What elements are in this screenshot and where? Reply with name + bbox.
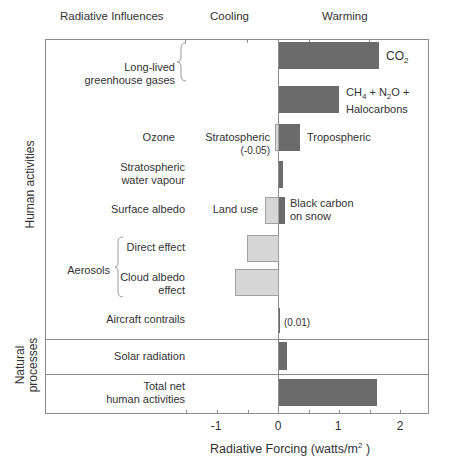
- bar-solar-radiation: [279, 342, 287, 370]
- total-l2: human activities: [60, 393, 185, 406]
- bar-aircraft-contrails: [279, 308, 280, 333]
- annot-black-carbon: Black carbon on snow: [290, 197, 354, 223]
- tick-label-1: 1: [323, 419, 353, 433]
- label-ozone: Ozone: [80, 131, 175, 144]
- bar-direct-effect: [247, 235, 279, 262]
- tick-bottom: [370, 410, 371, 414]
- tick-label-0: 0: [263, 419, 293, 433]
- bar-cloud-albedo: [235, 269, 279, 296]
- tick-bottom: [248, 410, 249, 414]
- label-strat-water-vapour: Stratospheric water vapour: [80, 161, 185, 187]
- divider-natural: [45, 339, 429, 340]
- cloud-l2: effect: [110, 284, 185, 297]
- tick-top: [247, 39, 248, 43]
- group-natural-processes: Natural processes: [14, 330, 40, 400]
- label-total-net: Total net human activities: [60, 380, 185, 406]
- tick-bottom: [339, 410, 340, 414]
- header-warming: Warming: [322, 10, 368, 22]
- header-radiative-influences: Radiative Influences: [60, 10, 164, 22]
- label-cloud-albedo: Cloud albedo effect: [110, 271, 185, 297]
- total-l1: Total net: [60, 380, 185, 393]
- label-solar-radiation: Solar radiation: [60, 350, 185, 363]
- bar-ozone-tropospheric: [279, 124, 300, 151]
- bar-ch4-n2o-halocarbons: [279, 86, 339, 113]
- cloud-l1: Cloud albedo: [110, 271, 185, 284]
- bar-land-use: [265, 197, 279, 224]
- label-long-lived: Long-lived greenhouse gases: [70, 61, 175, 87]
- annot-stratospheric: Stratospheric (-0.05): [190, 131, 270, 157]
- group-human-activities: Human activities: [24, 125, 37, 245]
- strat-text: Stratospheric: [190, 131, 270, 144]
- bc-l1: Black carbon: [290, 197, 354, 210]
- tick-bottom: [400, 410, 401, 414]
- bar-total-net: [279, 379, 377, 406]
- water-l2: water vapour: [80, 174, 185, 187]
- annot-land-use: Land use: [200, 203, 258, 216]
- label-long-lived-l1: Long-lived: [70, 61, 175, 74]
- label-aircraft-contrails: Aircraft contrails: [60, 313, 185, 326]
- label-aerosols: Aerosols: [60, 264, 110, 277]
- co2-sub: 2: [404, 56, 408, 65]
- divider-total: [45, 374, 429, 375]
- tick-label-neg1: -1: [201, 419, 231, 433]
- brace-long-lived-icon: [176, 42, 190, 82]
- tick-label-2: 2: [385, 419, 415, 433]
- bar-black-carbon: [279, 197, 285, 224]
- label-long-lived-l2: greenhouse gases: [70, 74, 175, 87]
- ch4-l2: Halocarbons: [346, 103, 409, 116]
- label-surface-albedo: Surface albedo: [80, 203, 185, 216]
- group-natural-line2: processes: [27, 330, 40, 400]
- ch4-a: CH: [346, 86, 362, 98]
- annot-contrails-value: (0.01): [284, 316, 310, 329]
- ch4-b: + N: [366, 86, 386, 98]
- co2-text: CO: [386, 49, 404, 63]
- bar-strat-water-vapour: [279, 161, 283, 188]
- tick-bottom: [186, 410, 187, 414]
- water-l1: Stratospheric: [80, 161, 185, 174]
- annot-tropospheric: Tropospheric: [307, 131, 371, 144]
- ch4-c: O +: [391, 86, 409, 98]
- bc-l2: on snow: [290, 210, 354, 223]
- bar-co2: [279, 42, 379, 69]
- annot-co2: CO2: [386, 50, 408, 67]
- x-axis-label: Radiative Forcing (watts/m2 ): [210, 441, 370, 456]
- label-direct-effect: Direct effect: [110, 241, 185, 254]
- tick-bottom: [217, 410, 218, 414]
- xlabel-end: ): [362, 442, 370, 456]
- tick-bottom: [309, 410, 310, 414]
- header-cooling: Cooling: [210, 10, 249, 22]
- strat-value: (-0.05): [190, 144, 270, 157]
- annot-ch4-n2o-halocarbons: CH4 + N2O + Halocarbons: [346, 86, 409, 116]
- xlabel-text: Radiative Forcing (watts/m: [210, 442, 358, 456]
